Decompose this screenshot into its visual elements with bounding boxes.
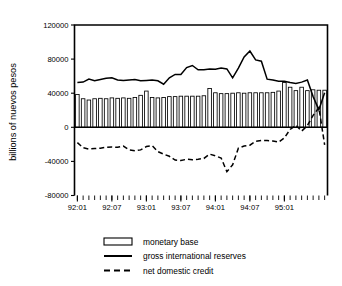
chart-figure: billions of nuevos pesos -80000-40000040… xyxy=(0,0,342,286)
bar xyxy=(237,93,241,128)
bar xyxy=(185,96,189,127)
y-tick-label: -80000 xyxy=(45,191,69,200)
bar xyxy=(248,93,252,128)
bar xyxy=(133,97,137,127)
bar xyxy=(277,91,281,127)
bar xyxy=(104,99,108,128)
bar xyxy=(139,95,143,127)
y-axis-ticks: -80000-4000004000080000120000 xyxy=(43,21,74,201)
chart-canvas: billions of nuevos pesos -80000-40000040… xyxy=(0,0,342,286)
x-tick-label: 93:07 xyxy=(171,203,190,212)
bar xyxy=(231,93,235,127)
legend-label: net domestic credit xyxy=(143,266,214,276)
x-tick-label: 95:01 xyxy=(275,203,294,212)
bar xyxy=(260,93,264,128)
y-tick-label: 0 xyxy=(64,123,68,132)
x-tick-label: 94:01 xyxy=(206,203,225,212)
bar xyxy=(116,98,120,127)
x-axis-ticks: 92:0192:0793:0193:0794:0194:0795:01 xyxy=(68,196,294,213)
chart-legend: monetary basegross international reserve… xyxy=(104,237,246,276)
bar xyxy=(225,94,229,128)
bar xyxy=(191,96,195,127)
bar xyxy=(76,94,80,127)
bar xyxy=(306,91,310,128)
bar xyxy=(145,91,149,127)
net-domestic-credit-line xyxy=(77,108,324,172)
legend-label: gross international reserves xyxy=(143,251,246,261)
bar xyxy=(242,93,246,127)
bar xyxy=(81,99,85,128)
bar xyxy=(271,92,275,127)
bar xyxy=(283,83,287,128)
bar xyxy=(196,96,200,127)
bar xyxy=(127,98,131,127)
bar xyxy=(99,98,103,127)
x-tick-label: 92:01 xyxy=(68,203,87,212)
y-axis-title-group: billions of nuevos pesos xyxy=(8,63,18,161)
y-tick-label: 80000 xyxy=(47,55,68,64)
bar xyxy=(110,98,114,127)
bar xyxy=(300,87,304,127)
bar xyxy=(168,97,172,128)
y-tick-label: -40000 xyxy=(45,157,69,166)
monetary-base-bars xyxy=(76,83,327,128)
bar xyxy=(156,98,160,127)
y-tick-label: 40000 xyxy=(47,89,68,98)
legend-label: monetary base xyxy=(143,237,199,247)
bar xyxy=(214,93,218,128)
bar xyxy=(254,93,258,128)
legend-swatch-monetary-base xyxy=(104,238,132,245)
bar xyxy=(150,97,154,127)
x-axis-minor-ticks xyxy=(77,196,324,201)
bar xyxy=(208,89,212,128)
bar xyxy=(179,96,183,127)
bar xyxy=(219,94,223,128)
gross-international-reserves-line xyxy=(77,51,324,110)
bar xyxy=(265,93,269,128)
bar xyxy=(202,96,206,128)
bar xyxy=(162,97,166,127)
bar xyxy=(87,100,91,127)
bar xyxy=(288,87,292,127)
bar xyxy=(93,99,97,128)
x-tick-label: 92:07 xyxy=(102,203,121,212)
y-tick-label: 120000 xyxy=(43,21,68,30)
x-tick-label: 93:01 xyxy=(137,203,156,212)
y-axis-title: billions of nuevos pesos xyxy=(8,63,18,161)
bar xyxy=(122,98,126,127)
bar xyxy=(294,91,298,128)
x-tick-label: 94:07 xyxy=(240,203,259,212)
bar xyxy=(173,97,177,128)
